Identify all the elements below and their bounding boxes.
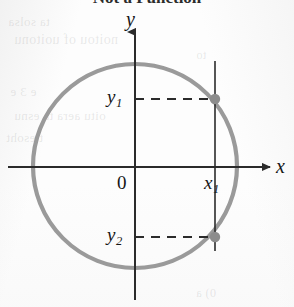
plot-canvas [0, 0, 294, 307]
y1-tick-label: y1 [107, 86, 122, 111]
y1-base: y [107, 86, 115, 107]
y2-base: y [107, 224, 115, 245]
x1-subscript: 1 [213, 182, 219, 196]
intersection-point-y2 [210, 232, 220, 242]
y2-subscript: 2 [116, 234, 122, 248]
origin-label: 0 [117, 172, 127, 194]
x-axis-label: x [276, 155, 285, 178]
x1-tick-label: x1 [204, 172, 219, 197]
y-axis-label: y [126, 8, 135, 31]
x1-base: x [204, 172, 212, 193]
figure-container: ta solsa noitou of uoitonu to e 3 e oitu… [0, 0, 294, 307]
y1-subscript: 1 [116, 96, 122, 110]
intersection-point-y1 [210, 94, 220, 104]
y2-tick-label: y2 [107, 224, 122, 249]
